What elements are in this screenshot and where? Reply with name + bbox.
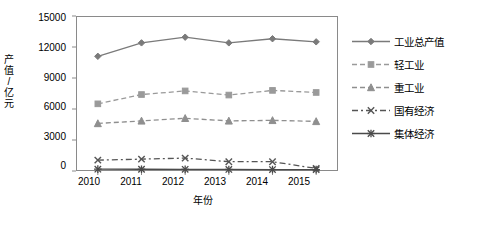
legend-key-0 bbox=[352, 36, 390, 48]
legend-key-2 bbox=[352, 82, 390, 94]
chart-legend: 工业总产值 轻工业 重工业 国有经济 集体经济 bbox=[352, 30, 478, 145]
legend-item: 轻工业 bbox=[352, 53, 478, 76]
legend-item: 工业总产值 bbox=[352, 30, 478, 53]
legend-label: 国有经济 bbox=[390, 103, 434, 118]
legend-label: 集体经济 bbox=[390, 126, 434, 141]
legend-label: 重工业 bbox=[390, 80, 424, 95]
legend-key-1 bbox=[352, 59, 390, 71]
legend-item: 国有经济 bbox=[352, 99, 478, 122]
legend-key-4 bbox=[352, 128, 390, 140]
legend-key-3 bbox=[352, 105, 390, 117]
legend-label: 工业总产值 bbox=[390, 34, 444, 49]
chart-container: 产 值 / 亿 元 0 3000 6000 9000 12000 15000 2… bbox=[0, 0, 481, 231]
legend-item: 集体经济 bbox=[352, 122, 478, 145]
legend-label: 轻工业 bbox=[390, 57, 424, 72]
legend-item: 重工业 bbox=[352, 76, 478, 99]
